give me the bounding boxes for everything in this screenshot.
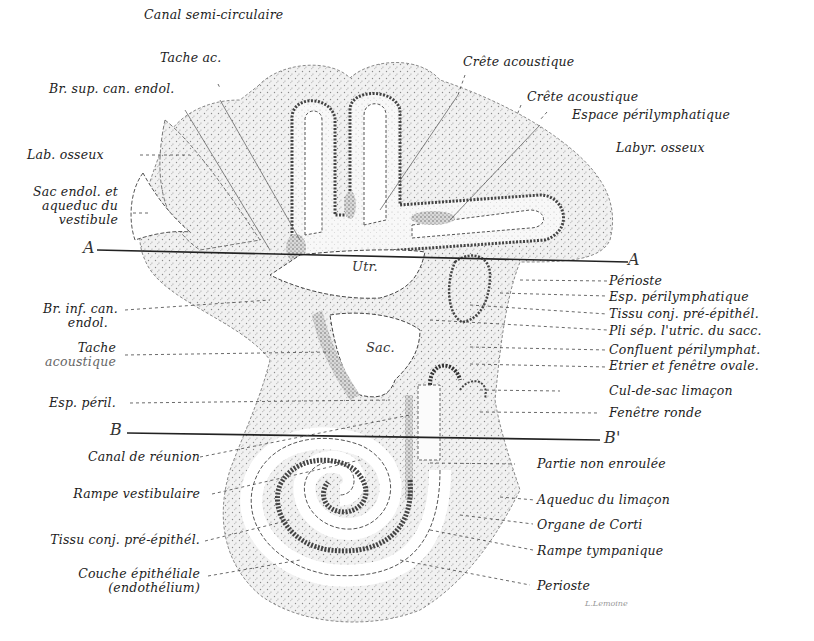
label-pli-sep: Pli sép. l'utric. du sacc.	[609, 324, 762, 338]
label-tissu-conj-left: Tissu conj. pré-épithél.	[10, 533, 200, 547]
label-esp-perilymphatique-right: Esp. périlymphatique	[609, 290, 749, 304]
label-confluent: Confluent périlymphat.	[609, 343, 760, 357]
label-crete-acoustique-2: Crête acoustique	[527, 90, 638, 104]
label-fenetre-ronde: Fenêtre ronde	[609, 406, 702, 420]
label-acoustique: acoustique	[10, 355, 116, 369]
label-organe-corti: Organe de Corti	[537, 518, 643, 532]
label-etrier: Etrier et fenêtre ovale.	[609, 359, 759, 373]
label-crete-acoustique-1: Crête acoustique	[463, 55, 574, 69]
label-b-left: B	[110, 423, 122, 437]
label-perioste-bottom: Perioste	[537, 579, 590, 593]
label-tache-acoustique-top: Tache ac.	[160, 51, 221, 65]
label-perioste-right: Périoste	[609, 274, 662, 288]
label-b-right: B'	[604, 431, 621, 445]
label-rampe-tympanique: Rampe tympanique	[537, 544, 663, 558]
label-endothelium: (endothélium)	[10, 581, 200, 595]
label-tache: Tache	[10, 341, 116, 355]
label-a-left: A	[83, 241, 95, 255]
label-a-right: A	[628, 253, 640, 267]
label-couche-epitheliale: Couche épithéliale	[10, 567, 200, 581]
signature: L.Lemoine	[584, 599, 628, 608]
label-saccule: Sac.	[366, 341, 395, 355]
label-sac-endol: Sac endol. et	[20, 185, 118, 199]
label-vestibule: vestibule	[20, 213, 118, 227]
label-esp-peril: Esp. péril.	[10, 396, 116, 410]
label-canal-de-reunion: Canal de réunion	[40, 450, 200, 464]
label-canal-semi-circulaire: Canal semi-circulaire	[144, 8, 283, 22]
label-rampe-vestibulaire: Rampe vestibulaire	[20, 487, 200, 501]
label-utricle: Utr.	[352, 260, 378, 274]
label-espace-perilymphatique: Espace périlymphatique	[572, 108, 730, 122]
label-br-inf-can: Br. inf. can.	[10, 302, 118, 316]
label-labyr-osseux: Labyr. osseux	[616, 141, 705, 155]
anatomical-figure: L.Lemoine Canal semi-circulaire Tache ac…	[0, 0, 814, 641]
label-tissu-conj-right: Tissu conj. pré-épithél.	[609, 307, 759, 321]
label-cul-de-sac: Cul-de-sac limaçon	[609, 384, 733, 398]
label-br-inf-endol: endol.	[10, 316, 108, 330]
label-lab-osseux: Lab. osseux	[27, 148, 104, 162]
label-partie-non-enroulee: Partie non enroulée	[537, 457, 666, 471]
label-aqueduc-du: aqueduc du	[20, 199, 118, 213]
label-br-sup-can-endol: Br. sup. can. endol.	[49, 82, 175, 96]
label-aqueduc-limacon: Aqueduc du limaçon	[537, 493, 670, 507]
